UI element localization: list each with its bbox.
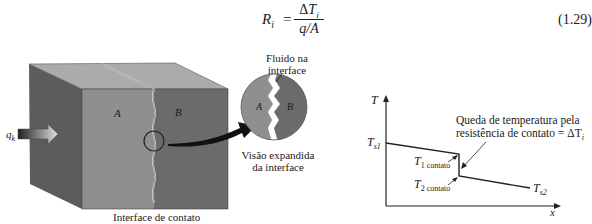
zoom-a-label: A: [256, 101, 262, 113]
ts1-label: Ts1: [367, 136, 381, 153]
ts2-label: Ts2: [533, 182, 547, 199]
x-axis-arrow-icon: [554, 203, 561, 209]
temperature-profile-line: [386, 143, 530, 188]
delta-t-pointer-line: [463, 142, 486, 167]
zoom-b-label: B: [287, 101, 293, 113]
t2-contact-label: T2 contato: [414, 178, 450, 195]
y-axis-label: T: [371, 94, 378, 107]
contact-drop-annotation: Queda de temperatura pela resistência de…: [456, 114, 584, 144]
y-axis-arrow-icon: [383, 95, 389, 102]
material-b-face: [154, 89, 228, 209]
t1-contact-label: T1 contato: [414, 155, 450, 172]
material-a-label: A: [114, 107, 121, 119]
expanded-view-label: Visão expandida da interface: [238, 149, 318, 173]
x-axis-label: x: [550, 206, 555, 219]
material-b-label: B: [175, 106, 182, 118]
contact-interface-illustration: [0, 0, 592, 224]
fluid-label: Fluido na interface: [262, 52, 312, 76]
interface-label: Interface de contato: [113, 211, 200, 223]
heat-flow-label: qk: [6, 128, 15, 145]
